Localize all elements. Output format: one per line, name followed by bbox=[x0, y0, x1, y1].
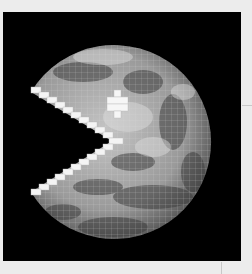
image-frame bbox=[3, 12, 241, 261]
pacman-earth-illustration bbox=[3, 12, 241, 261]
background-line bbox=[242, 105, 252, 106]
earth-globe bbox=[3, 12, 241, 261]
background-line bbox=[221, 262, 222, 274]
